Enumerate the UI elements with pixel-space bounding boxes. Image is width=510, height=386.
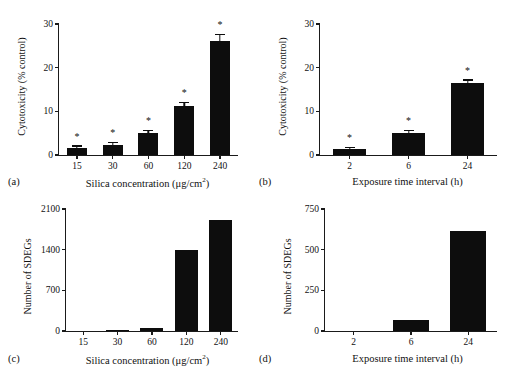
panel-c-x-tick (117, 331, 118, 335)
error-bar (76, 147, 77, 148)
panel-d-x-tick (353, 331, 354, 335)
panel-c-x-tick (151, 331, 152, 335)
panel-a-x-tick (219, 155, 220, 159)
bar-group[interactable]: * (320, 24, 379, 155)
bar-group[interactable] (135, 209, 169, 331)
panel-a-x-tick-label: 30 (108, 161, 118, 171)
bar-group[interactable]: * (438, 24, 497, 155)
error-bar-cap (463, 79, 473, 80)
panel-b-x-tick-label: 6 (406, 161, 411, 171)
panel-d-y-tick-label: 250 (305, 285, 319, 295)
panel-b-y-tick-label: 10 (305, 106, 315, 116)
error-bar-cap (215, 34, 225, 35)
error-bar (349, 148, 350, 149)
bar[interactable] (174, 106, 194, 155)
panel-d-y-tick-label: 750 (305, 204, 319, 214)
panel-a-x-tick-label: 15 (72, 161, 82, 171)
panel-c-y-tick-label: 2100 (41, 204, 60, 214)
error-bar (148, 131, 149, 133)
panel-c: Number of SDEGs 070014002100153060120240… (0, 193, 255, 386)
panel-a-y-tick-label: 10 (44, 106, 54, 116)
panel-d-x-tick (468, 331, 469, 335)
bar-group[interactable]: * (59, 24, 95, 155)
panel-a-x-tick (76, 155, 77, 159)
panel-b-tag: (b) (259, 176, 271, 187)
panel-c-x-tick-label: 120 (179, 337, 193, 347)
bar-group[interactable]: * (379, 24, 438, 155)
bar-group[interactable]: * (131, 24, 167, 155)
bar[interactable] (138, 133, 158, 155)
significance-marker: * (406, 118, 411, 124)
panel-c-x-tick-label: 60 (147, 337, 157, 347)
panel-d-y-tick-label: 0 (314, 326, 319, 336)
panel-a-x-tick-label: 240 (213, 161, 227, 171)
panel-c-x-axis-label: Silica concentration (μg/cm2) (45, 353, 250, 366)
panel-b-y-tick-label: 20 (305, 63, 315, 73)
bar-group[interactable]: * (166, 24, 202, 155)
error-bar (184, 103, 185, 106)
bar[interactable] (392, 133, 425, 155)
panel-b-bars: *** (320, 24, 497, 155)
bar[interactable] (450, 231, 486, 331)
bar-group[interactable]: * (202, 24, 238, 155)
bar[interactable] (67, 148, 87, 155)
panel-b-plot-area: 0102030***2624 (319, 24, 497, 156)
error-bar (467, 81, 468, 84)
bar[interactable] (209, 220, 232, 331)
error-bar-cap (345, 147, 355, 148)
bar[interactable] (103, 145, 123, 155)
panel-c-plot-area: 070014002100153060120240 (65, 209, 238, 332)
panel-a: Cytotoxicity (% control) 0102030*****153… (0, 0, 255, 193)
panel-b-x-tick (467, 155, 468, 159)
significance-marker: * (182, 90, 187, 96)
panel-c-x-tick (186, 331, 187, 335)
significance-marker: * (146, 118, 151, 124)
bar[interactable] (175, 250, 198, 331)
panel-d-plot-area: 02505007502624 (324, 209, 497, 332)
panel-a-tag: (a) (8, 176, 20, 187)
panel-b-y-axis-label: Cytotoxicity (% control) (277, 27, 288, 147)
panel-a-x-tick (112, 155, 113, 159)
significance-marker: * (465, 68, 470, 74)
panel-b-y-tick-label: 30 (305, 19, 315, 29)
bar[interactable] (210, 41, 230, 155)
bar-group[interactable] (100, 209, 134, 331)
panel-c-bars (66, 209, 238, 331)
panel-c-x-axis-label-text: Silica concentration (μg/cm (86, 355, 202, 366)
panel-a-plot-area: 0102030*****153060120240 (58, 24, 238, 156)
panel-d-x-tick-label: 24 (464, 337, 474, 347)
panel-d-bars (325, 209, 497, 331)
error-bar-cap (108, 142, 118, 143)
panel-b-y-tick-label: 0 (309, 150, 314, 160)
panel-d-x-tick-label: 2 (351, 337, 356, 347)
panel-c-x-tick (220, 331, 221, 335)
bar-group[interactable] (204, 209, 238, 331)
error-bar (408, 131, 409, 133)
significance-marker: * (74, 134, 79, 140)
error-bar-cap (404, 130, 414, 131)
bar-group[interactable] (66, 209, 100, 331)
significance-marker: * (110, 130, 115, 136)
error-bar-cap (72, 145, 82, 146)
panel-c-y-tick-label: 0 (55, 326, 60, 336)
panel-b-x-tick (408, 155, 409, 159)
significance-marker: * (218, 22, 223, 28)
bar-group[interactable]: * (95, 24, 131, 155)
bar-group[interactable] (169, 209, 203, 331)
error-bar-cap (143, 130, 153, 131)
error-bar (219, 35, 220, 42)
bar-group[interactable] (440, 209, 497, 331)
bar[interactable] (393, 320, 429, 331)
panel-c-x-tick-label: 15 (78, 337, 88, 347)
bar-group[interactable] (325, 209, 382, 331)
panel-a-x-axis-label: Silica concentration (μg/cm2) (45, 176, 250, 189)
bar-group[interactable] (382, 209, 439, 331)
panel-d-tag: (d) (259, 353, 271, 364)
bar[interactable] (451, 83, 484, 155)
error-bar (112, 143, 113, 145)
error-bar-cap (179, 102, 189, 103)
panel-a-y-tick-label: 0 (48, 150, 53, 160)
panel-c-x-tick-label: 30 (113, 337, 123, 347)
panel-c-x-tick-label: 240 (214, 337, 228, 347)
panel-b-x-tick (349, 155, 350, 159)
